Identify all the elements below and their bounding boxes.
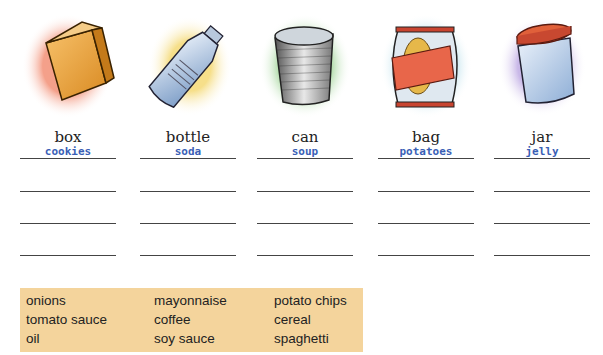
answer-line[interactable] [494,255,590,256]
answer-text: soup [257,145,353,158]
answer-line[interactable] [20,255,116,256]
bottle-icon [140,8,236,118]
answer-line[interactable] [20,191,116,192]
answer-line[interactable] [20,223,116,224]
answer-text: jelly [494,145,590,158]
answer-text: potatoes [378,145,474,158]
answer-line[interactable] [378,191,474,192]
word-bank-column: potato chips cereal spaghetti [274,291,347,348]
word-bank-item: onions [26,291,107,310]
word-bank-item: coffee [154,310,227,329]
word-bank-item: cereal [274,310,347,329]
container-label: jar [494,128,590,146]
answer-line[interactable] [20,158,116,159]
container-label: bottle [140,128,236,146]
bag-icon [378,8,474,118]
answer-line[interactable] [378,255,474,256]
answer-line[interactable] [140,223,236,224]
answer-line[interactable] [257,255,353,256]
container-label: bag [378,128,474,146]
container-label: can [257,128,353,146]
answer-line[interactable] [140,158,236,159]
answer-text: soda [140,145,236,158]
word-bank-column: onions tomato sauce oil [26,291,107,348]
word-bank-item: oil [26,329,107,348]
answer-line[interactable] [140,255,236,256]
word-bank-column: mayonnaise coffee soy sauce [154,291,227,348]
word-bank-item: spaghetti [274,329,347,348]
answer-text: cookies [20,145,116,158]
word-bank-item: potato chips [274,291,347,310]
container-label: box [20,128,116,146]
word-bank-item: soy sauce [154,329,227,348]
jar-icon [494,8,590,118]
word-bank: onions tomato sauce oil mayonnaise coffe… [20,288,363,352]
answer-line[interactable] [378,223,474,224]
answer-line[interactable] [378,158,474,159]
answer-line[interactable] [494,223,590,224]
answer-line[interactable] [494,191,590,192]
answer-line[interactable] [257,158,353,159]
word-bank-item: mayonnaise [154,291,227,310]
answer-line[interactable] [257,223,353,224]
answer-line[interactable] [257,191,353,192]
box-icon [20,8,116,118]
can-icon [257,8,353,118]
answer-line[interactable] [140,191,236,192]
word-bank-item: tomato sauce [26,310,107,329]
answer-line[interactable] [494,158,590,159]
